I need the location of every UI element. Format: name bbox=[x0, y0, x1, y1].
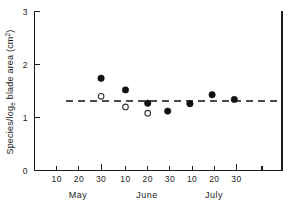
y-axis-label-main: Species/log bbox=[5, 106, 15, 155]
data-point-filled bbox=[231, 96, 237, 102]
data-point-filled bbox=[145, 100, 151, 106]
data-point-filled bbox=[122, 87, 128, 93]
y-tick-label-1: 1 bbox=[23, 113, 28, 123]
month-labels: May June July bbox=[69, 190, 223, 200]
x-tick-labels: 10 20 30 10 20 30 10 20 30 bbox=[52, 174, 242, 184]
data-point-filled bbox=[187, 101, 193, 107]
data-point-filled bbox=[98, 75, 104, 81]
y-tick-labels: 0 1 2 3 bbox=[23, 7, 28, 176]
data-point-open bbox=[123, 104, 129, 110]
y-axis-label: Species/loge blade area (cm2) bbox=[4, 29, 16, 154]
y-tick-label-2: 2 bbox=[23, 60, 28, 70]
data-point-filled bbox=[165, 108, 171, 114]
x-tick-label-5: 30 bbox=[165, 174, 175, 184]
x-tick-label-3: 10 bbox=[120, 174, 130, 184]
x-tick-label-0: 10 bbox=[52, 174, 62, 184]
month-label-june: June bbox=[136, 190, 158, 200]
x-tick-label-1: 20 bbox=[74, 174, 84, 184]
data-point-open bbox=[145, 110, 151, 116]
x-tick-label-7: 20 bbox=[209, 174, 219, 184]
y-axis-label-group: Species/loge blade area (cm2) bbox=[4, 29, 16, 154]
y-axis-label-rest: blade area (cm bbox=[5, 36, 15, 102]
data-point-open bbox=[98, 94, 104, 100]
x-tick-label-4: 20 bbox=[143, 174, 153, 184]
y-axis-label-end: ) bbox=[5, 29, 15, 32]
x-tick-label-2: 30 bbox=[96, 174, 106, 184]
y-tick-label-0: 0 bbox=[23, 166, 28, 176]
month-label-july: July bbox=[205, 190, 223, 200]
y-tick-label-3: 3 bbox=[23, 7, 28, 17]
x-tick-marks bbox=[57, 164, 262, 171]
scatter-plot: 0 1 2 3 10 20 30 10 20 30 10 20 bbox=[0, 0, 290, 205]
x-tick-label-8: 30 bbox=[231, 174, 241, 184]
chart-figure: 0 1 2 3 10 20 30 10 20 30 10 20 bbox=[0, 0, 290, 205]
data-point-filled bbox=[209, 92, 215, 98]
month-label-may: May bbox=[69, 190, 88, 200]
series-open-points bbox=[98, 94, 150, 116]
x-tick-label-6: 10 bbox=[187, 174, 197, 184]
series-filled-points bbox=[98, 75, 238, 114]
